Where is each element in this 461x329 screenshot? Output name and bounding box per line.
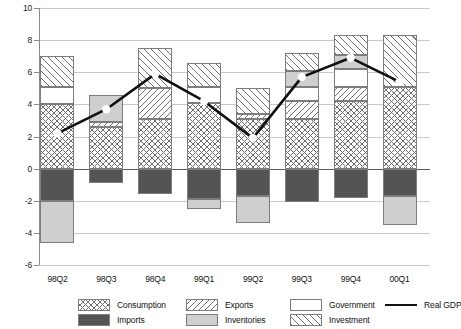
legend-label: Consumption	[117, 300, 166, 310]
chart-legend: ConsumptionImportsExportsInventoriesGove…	[0, 296, 437, 329]
legend-label: Real GDP	[424, 300, 461, 310]
legend-item[interactable]: Government	[290, 299, 375, 311]
legend-item[interactable]: Consumption	[78, 299, 166, 311]
x-tick-label: 99Q4	[326, 274, 376, 284]
legend-swatch	[78, 314, 110, 326]
legend-swatch	[290, 299, 322, 311]
legend-label: Government	[329, 300, 375, 310]
x-tick-label: 99Q3	[277, 274, 327, 284]
legend-item[interactable]: Imports	[78, 314, 145, 326]
x-tick-label: 98Q4	[130, 274, 180, 284]
legend-swatch	[290, 314, 322, 326]
legend-item[interactable]: Real GDP	[385, 299, 461, 311]
legend-swatch	[186, 314, 218, 326]
legend-item[interactable]: Exports	[186, 299, 253, 311]
legend-swatch	[78, 299, 110, 311]
legend-swatch-line	[385, 299, 417, 311]
legend-label: Investment	[329, 315, 370, 325]
legend-swatch	[186, 299, 218, 311]
legend-item[interactable]: Investment	[290, 314, 370, 326]
legend-label: Exports	[225, 300, 253, 310]
x-tick-label: 98Q3	[81, 274, 131, 284]
x-tick-label: 99Q2	[228, 274, 278, 284]
x-tick-label: 99Q1	[179, 274, 229, 284]
legend-item[interactable]: Inventories	[186, 314, 265, 326]
x-tick-label: 00Q1	[375, 274, 425, 284]
legend-label: Inventories	[225, 315, 265, 325]
x-tick-label: 98Q2	[32, 274, 82, 284]
legend-label: Imports	[117, 315, 145, 325]
